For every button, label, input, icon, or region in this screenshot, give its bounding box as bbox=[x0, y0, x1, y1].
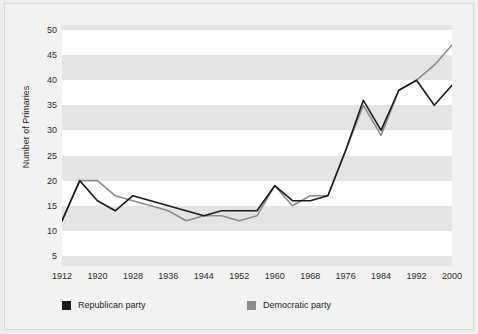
x-axis-tick-label: 1976 bbox=[326, 270, 366, 282]
y-axis-tick-label: 10 bbox=[19, 226, 57, 236]
x-axis-tick-label: 1992 bbox=[397, 270, 437, 282]
legend-swatch-icon bbox=[62, 301, 71, 310]
chart-screenshot: Number of Primaries 5101520253035404550 … bbox=[0, 0, 478, 334]
series-lines bbox=[62, 25, 452, 266]
x-axis-tick-label: 1944 bbox=[184, 270, 224, 282]
y-axis-tick-label: 30 bbox=[19, 125, 57, 135]
legend-item[interactable]: Republican party bbox=[62, 300, 146, 310]
x-axis-tick-label: 1968 bbox=[290, 270, 330, 282]
x-axis-tick-label: 2000 bbox=[432, 270, 472, 282]
plot-area bbox=[62, 25, 452, 266]
legend-swatch-icon bbox=[247, 301, 256, 310]
x-axis-tick-label: 1984 bbox=[361, 270, 401, 282]
y-axis-tick-label: 50 bbox=[19, 25, 57, 35]
legend-item[interactable]: Democratic party bbox=[247, 300, 331, 310]
x-axis-tick-label: 1960 bbox=[255, 270, 295, 282]
legend-label: Republican party bbox=[78, 300, 146, 310]
y-axis-tick-label: 45 bbox=[19, 50, 57, 60]
y-axis-tick-label: 25 bbox=[19, 151, 57, 161]
y-axis-tick-label: 15 bbox=[19, 201, 57, 211]
y-axis-tick-label: 35 bbox=[19, 100, 57, 110]
x-axis-tick-label: 1952 bbox=[219, 270, 259, 282]
x-axis-tick-labels: 1912192019281936194419521960196819761984… bbox=[62, 270, 452, 284]
y-axis-tick-label: 5 bbox=[19, 251, 57, 261]
series-line bbox=[62, 80, 452, 221]
series-line bbox=[62, 45, 452, 221]
figure-panel: Number of Primaries 5101520253035404550 … bbox=[4, 3, 474, 330]
y-axis-tick-label: 40 bbox=[19, 75, 57, 85]
y-axis-tick-labels: 5101520253035404550 bbox=[19, 25, 57, 266]
legend-label: Democratic party bbox=[263, 300, 331, 310]
x-axis-tick-label: 1936 bbox=[148, 270, 188, 282]
x-axis-tick-label: 1920 bbox=[77, 270, 117, 282]
x-axis-tick-label: 1928 bbox=[113, 270, 153, 282]
y-axis-tick-label: 20 bbox=[19, 176, 57, 186]
x-axis-tick-label: 1912 bbox=[42, 270, 82, 282]
